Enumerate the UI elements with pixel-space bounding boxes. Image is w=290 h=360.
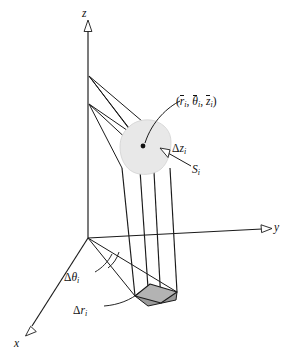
z-bar: z (206, 96, 210, 108)
y-axis-arrowhead-icon (261, 225, 272, 233)
sample-point-label: (ri, θi, zi) (176, 96, 217, 109)
x-axis-arrowhead-icon (26, 326, 37, 336)
cross-section-group (120, 120, 171, 175)
surface-subscript: i (198, 168, 200, 177)
z-axis-label: z (82, 8, 86, 20)
delta-r-subscript: i (85, 309, 87, 318)
delta-z-label: Δzi (172, 143, 186, 156)
delta-r-label: Δri (73, 305, 87, 318)
column-edge-left (122, 168, 135, 296)
delta-theta-arc (108, 252, 119, 268)
sample-point-dot (141, 144, 146, 149)
origin-ray-near (88, 238, 135, 296)
paren-close: ) (213, 95, 217, 107)
column-edge-midright (154, 172, 161, 303)
delta-theta-subscript: i (77, 276, 79, 285)
theta-bar: θ (192, 96, 198, 108)
figure-root: (ri, θi, zi) Δzi Si Δθi Δri z y x (0, 0, 290, 360)
ray-upper-c (89, 76, 129, 128)
surface-label: Si (192, 164, 200, 177)
cross-section-blob (120, 120, 171, 175)
delta-theta-label: Δθi (64, 272, 79, 285)
y-axis-line (88, 229, 262, 238)
y-axis-label: y (274, 222, 279, 234)
delta-z-subscript: i (184, 147, 186, 156)
z-axis-arrowhead-icon (84, 20, 92, 32)
column-edge-right (170, 168, 177, 292)
x-axis-label: x (14, 338, 19, 350)
diagram-canvas (0, 0, 290, 360)
base-patch-group (135, 284, 177, 306)
origin-ray-far (88, 238, 177, 292)
r-bar: r (180, 96, 184, 108)
